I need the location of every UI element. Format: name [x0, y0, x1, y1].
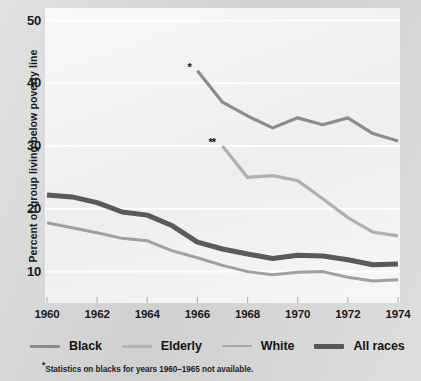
xtick-label-1962: 1962 [72, 309, 122, 321]
y-axis: Percent of group living below poverty li… [0, 0, 41, 381]
ytick-label-40: 40 [9, 76, 41, 89]
legend-label: White [261, 339, 295, 353]
elderly-series-asterisk: ** [209, 137, 216, 148]
legend-label: Black [69, 339, 102, 353]
footnote-text: Statistics on blacks for years 1960–1965… [45, 365, 253, 374]
plot-area: *** [45, 8, 400, 303]
xtick-label-1960: 1960 [22, 309, 72, 321]
xtick-label-1970: 1970 [273, 309, 323, 321]
xtick-label-1974: 1974 [373, 309, 421, 321]
footnotes: *Statistics on blacks for years 1960–196… [42, 365, 412, 375]
xtick-label-1968: 1968 [223, 309, 273, 321]
axis-tickmarks [47, 297, 398, 303]
legend-item-all-races[interactable]: All races [314, 339, 404, 353]
series-line-elderly [223, 146, 399, 236]
legend-swatch-black [30, 345, 60, 348]
legend-swatch-elderly [122, 345, 152, 348]
footnote-1: *Statistics on blacks for years 1960–196… [42, 365, 412, 375]
poverty-line-chart-figure: *** Percent of group living below povert… [0, 0, 421, 381]
legend-label: Elderly [161, 339, 202, 353]
x-axis: 19601962196419661968197019721974 [45, 309, 400, 325]
chart-canvas [45, 8, 400, 303]
legend-swatch-all-races [314, 344, 344, 349]
legend-item-elderly[interactable]: Elderly [122, 339, 202, 353]
xtick-label-1972: 1972 [323, 309, 373, 321]
ytick-label-20: 20 [9, 202, 41, 215]
legend-item-black[interactable]: Black [30, 339, 102, 353]
ytick-label-50: 50 [9, 14, 41, 27]
legend-label: All races [353, 339, 404, 353]
y-axis-title: Percent of group living below poverty li… [27, 31, 39, 281]
chart-legend: BlackElderlyWhiteAll races [30, 337, 415, 355]
xtick-label-1964: 1964 [122, 309, 172, 321]
series-lines [47, 71, 398, 281]
legend-swatch-white [222, 345, 252, 347]
ytick-label-30: 30 [9, 139, 41, 152]
legend-item-white[interactable]: White [222, 339, 295, 353]
xtick-label-1966: 1966 [172, 309, 222, 321]
series-line-black [197, 71, 398, 141]
series-line-all-races [47, 195, 398, 265]
black-series-asterisk: * [187, 62, 190, 73]
ytick-label-10: 10 [9, 265, 41, 278]
